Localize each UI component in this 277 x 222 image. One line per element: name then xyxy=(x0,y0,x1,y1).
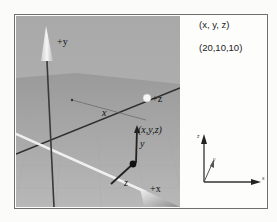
label-plus-y: +y xyxy=(57,36,68,47)
label-plus-x: +x xyxy=(150,183,161,194)
3d-coordinate-scene: +y +z +x x y z (x,y,z) xyxy=(16,16,180,207)
mini-x-label: x xyxy=(262,175,265,181)
label-x-component: x xyxy=(101,107,107,118)
info-panel: (x, y, z) (20,10,10) z y x xyxy=(181,16,267,207)
label-point-xyz: (x,y,z) xyxy=(138,124,163,136)
label-y-component: y xyxy=(139,138,145,149)
label-z-component: z xyxy=(123,177,128,188)
mini-y-label: y xyxy=(213,156,216,162)
y-component-arrow xyxy=(136,129,137,163)
mini-axes-diagram: z y x xyxy=(181,16,267,207)
mini-y-axis xyxy=(204,164,212,182)
z-axis-point xyxy=(143,94,151,102)
label-plus-z: +z xyxy=(152,93,163,104)
mini-z-label: z xyxy=(197,133,200,139)
origin-point xyxy=(130,161,137,168)
